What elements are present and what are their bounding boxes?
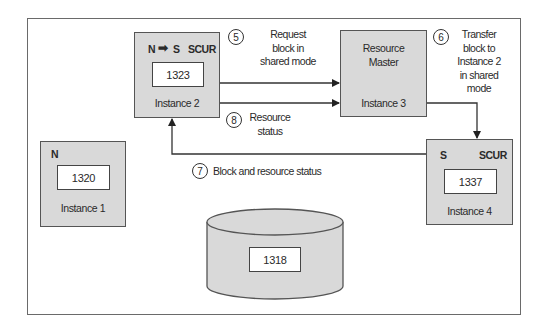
step-5-number: 5 [233,32,239,43]
disk-block: 1318 [249,247,301,272]
step-8-line-1: Resource [244,111,296,125]
step-7-number: 7 [197,166,203,177]
disk-block-number: 1318 [263,254,286,266]
step-5-line-3: shared mode [248,55,328,69]
step-5-line-1: Request [248,28,328,42]
instance-2-box: N ➡ S SCUR 1323 Instance 2 [134,32,220,118]
instance-1-label: Instance 1 [41,202,125,214]
instance-2-mode-from: N [148,43,155,55]
step-8-note: Resource status [244,111,296,138]
step-6-note: Transfer block to Instance 2 in shared m… [449,28,509,96]
instance-4-block-number: 1337 [459,176,482,188]
right-arrow-icon: ➡ [158,41,168,55]
instance-1-block: 1320 [57,165,110,190]
instance-1-mode: N [51,148,58,160]
step-5-note: Request block in shared mode [248,28,328,69]
instance-2-block-number: 1323 [166,69,189,81]
instance-3-label: Instance 3 [341,97,426,109]
arrow-block-and-resource-status [172,119,426,154]
instance-4-block: 1337 [444,169,497,194]
instance-4-label: Instance 4 [427,205,512,217]
step-7-note: Block and resource status [213,165,321,179]
step-7-badge: 7 [192,163,208,179]
instance-4-mode: S [440,149,447,161]
step-8-line-2: status [244,125,296,139]
instance-2-lock: SCUR [188,43,216,55]
instance-1-box: N 1320 Instance 1 [40,141,126,227]
step-5-line-2: block in [248,42,328,56]
instance-2-mode-to: S [173,43,180,55]
step-6-line-2: block to [449,42,509,56]
step-8-number: 8 [231,115,237,126]
instance-4-box: S SCUR 1337 Instance 4 [426,139,513,225]
step-5-badge: 5 [228,29,244,45]
instance-1-block-number: 1320 [72,172,95,184]
resource-master-label: Resource Master [341,41,426,69]
step-6-number: 6 [438,32,444,43]
step-7-line-1: Block and resource status [213,165,321,179]
instance-2-label: Instance 2 [135,97,219,109]
step-6-line-4: in shared [449,69,509,83]
step-6-badge: 6 [433,29,449,45]
instance-3-resource-master-box: Resource Master Instance 3 [340,30,427,117]
arrow-transfer-block [426,103,477,138]
instance-2-block: 1323 [152,62,204,87]
instance-4-lock: SCUR [479,149,507,161]
step-6-line-1: Transfer [449,28,509,42]
step-6-line-3: Instance 2 [449,55,509,69]
step-6-line-5: mode [449,82,509,96]
step-8-badge: 8 [226,112,242,128]
